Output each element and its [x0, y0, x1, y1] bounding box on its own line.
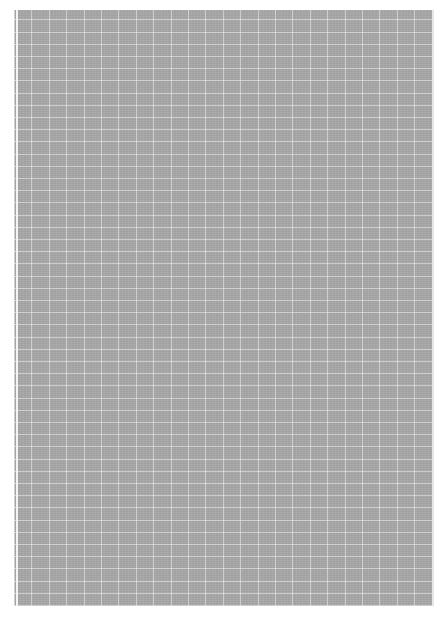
grid-sheet	[14, 10, 434, 606]
left-margin-line	[16, 10, 18, 606]
right-margin-line	[432, 10, 434, 606]
